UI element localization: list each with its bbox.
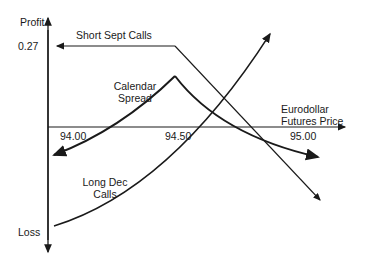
profit-label: Profit [20,16,45,28]
chart-plot [0,0,365,256]
x-tick-95-00: 95.00 [290,130,316,142]
short-sept-calls-label: Short Sept Calls [76,29,152,41]
x-tick-94-00: 94.00 [60,130,86,142]
x-tick-94-50: 94.50 [165,130,191,142]
y-tick-0-27: 0.27 [18,40,38,52]
payoff-chart: Profit 0.27 Short Sept Calls Calendar Sp… [0,0,365,256]
loss-label: Loss [18,226,40,238]
calendar-spread-label: Calendar Spread [105,80,165,104]
x-axis-title: Eurodollar Futures Price [281,103,343,127]
long-dec-calls-label: Long Dec Calls [75,176,135,200]
